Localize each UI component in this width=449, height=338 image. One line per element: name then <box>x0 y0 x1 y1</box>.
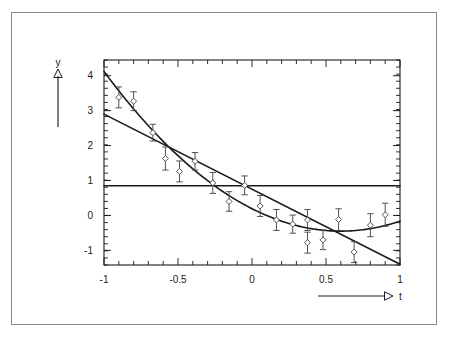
data-point <box>176 161 182 182</box>
y-tick-label: 4 <box>87 70 93 81</box>
data-marker-diamond-icon <box>290 221 296 227</box>
x-axis-label: t <box>399 291 402 302</box>
data-points <box>116 87 389 263</box>
data-point <box>273 209 279 230</box>
data-point <box>320 230 326 250</box>
data-point <box>210 172 216 193</box>
data-point <box>241 176 247 195</box>
figure-canvas: -1-0.500.5143210-1yt <box>0 0 449 338</box>
y-tick-label: 2 <box>87 140 93 151</box>
x-axis-arrow-head-icon <box>385 292 394 300</box>
data-point <box>351 242 357 263</box>
x-tick-label: 1 <box>397 274 403 285</box>
chart-plot: -1-0.500.5143210-1yt <box>0 0 449 338</box>
data-marker-diamond-icon <box>162 155 168 161</box>
data-point <box>290 215 296 233</box>
x-tick-label: 0.5 <box>319 274 333 285</box>
data-point <box>130 92 136 111</box>
data-marker-diamond-icon <box>131 98 137 104</box>
fitted-curves <box>104 72 400 265</box>
data-marker-diamond-icon <box>336 217 342 223</box>
data-point <box>116 87 122 108</box>
data-marker-diamond-icon <box>226 198 232 204</box>
data-marker-diamond-icon <box>150 130 156 136</box>
y-tick-label: 3 <box>87 105 93 116</box>
quadratic-fit-curve <box>104 72 400 232</box>
y-axis-label: y <box>56 57 61 68</box>
data-marker-diamond-icon <box>320 237 326 243</box>
data-marker-diamond-icon <box>242 182 248 188</box>
data-marker-diamond-icon <box>257 203 263 209</box>
data-point <box>382 203 388 226</box>
axis-ticks <box>104 60 400 265</box>
data-marker-diamond-icon <box>367 222 373 228</box>
data-marker-diamond-icon <box>176 168 182 174</box>
plot-frame <box>104 60 400 265</box>
data-marker-diamond-icon <box>305 240 311 246</box>
data-point <box>335 209 341 231</box>
y-tick-label: 0 <box>87 210 93 221</box>
data-marker-diamond-icon <box>351 249 357 255</box>
y-tick-label: -1 <box>84 245 93 256</box>
data-point <box>192 153 198 170</box>
x-tick-label: -0.5 <box>169 274 187 285</box>
data-point <box>304 232 310 253</box>
x-tick-label: 0 <box>249 274 255 285</box>
y-tick-label: 1 <box>87 175 93 186</box>
data-marker-diamond-icon <box>116 94 122 100</box>
x-tick-label: -1 <box>100 274 109 285</box>
data-point <box>367 214 373 237</box>
data-marker-diamond-icon <box>382 212 388 218</box>
data-point <box>162 147 168 170</box>
